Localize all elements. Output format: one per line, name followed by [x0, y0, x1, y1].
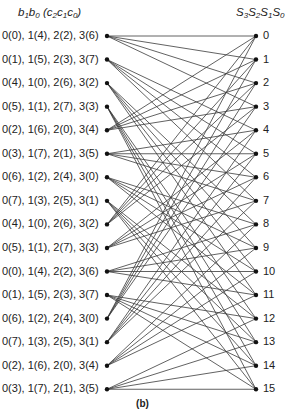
trellis-edge	[107, 60, 256, 319]
left-state-label: 0(6), 1(2), 2(4), 3(0)	[2, 170, 99, 182]
right-state-label: 6	[263, 170, 269, 182]
right-state-label: 0	[263, 29, 269, 41]
right-node	[254, 387, 258, 391]
right-node	[254, 152, 258, 156]
right-state-label: 12	[263, 312, 275, 324]
left-state-label: 0(5), 1(1), 2(7), 3(3)	[2, 241, 99, 253]
right-node	[254, 222, 258, 226]
trellis-edge	[107, 107, 256, 225]
left-node	[105, 104, 109, 108]
left-state-label: 0(3), 1(7), 2(1), 3(5)	[2, 382, 99, 394]
left-node	[105, 128, 109, 132]
left-state-label: 0(7), 1(3), 2(5), 3(1)	[2, 194, 99, 206]
left-state-label: 0(1), 1(5), 2(3), 3(7)	[2, 288, 99, 300]
left-node	[105, 222, 109, 226]
right-node	[254, 364, 258, 368]
left-node	[105, 246, 109, 250]
trellis-edge	[107, 319, 256, 390]
trellis-edge	[107, 224, 256, 365]
trellis-edge	[107, 342, 256, 389]
left-state-label: 0(4), 1(0), 2(6), 3(2)	[2, 76, 99, 88]
left-node	[105, 81, 109, 85]
right-state-label: 9	[263, 241, 269, 253]
trellis-edge	[107, 36, 256, 60]
right-state-label: 5	[263, 147, 269, 159]
right-state-label: 13	[263, 335, 275, 347]
left-state-label: 0(4), 1(0), 2(6), 3(2)	[2, 217, 99, 229]
left-node	[105, 364, 109, 368]
right-node	[254, 199, 258, 203]
left-state-label: 0(7), 1(3), 2(5), 3(1)	[2, 335, 99, 347]
trellis-edge	[107, 177, 256, 342]
left-state-label: 0(3), 1(7), 2(1), 3(5)	[2, 147, 99, 159]
left-node	[105, 34, 109, 38]
left-state-label: 0(0), 1(4), 2(2), 3(6)	[2, 265, 99, 277]
right-state-label: 15	[263, 382, 275, 394]
right-state-label: 3	[263, 100, 269, 112]
right-node	[254, 316, 258, 320]
left-node	[105, 293, 109, 297]
left-node	[105, 175, 109, 179]
left-state-label: 0(2), 1(6), 2(0), 3(4)	[2, 359, 99, 371]
left-state-label: 0(5), 1(1), 2(7), 3(3)	[2, 100, 99, 112]
right-state-label: 8	[263, 217, 269, 229]
trellis-edge	[107, 201, 256, 248]
right-node	[254, 269, 258, 273]
left-node	[105, 152, 109, 156]
left-node	[105, 340, 109, 344]
right-node	[254, 81, 258, 85]
right-node	[254, 246, 258, 250]
trellis-edge	[107, 36, 256, 224]
trellis-edge	[107, 366, 256, 390]
left-node	[105, 199, 109, 203]
right-state-label: 11	[263, 288, 274, 300]
left-state-label: 0(2), 1(6), 2(0), 3(4)	[2, 123, 99, 135]
left-state-label: 0(0), 1(4), 2(2), 3(6)	[2, 29, 99, 41]
trellis-edge	[107, 154, 256, 342]
right-node	[254, 34, 258, 38]
trellis-edge	[107, 130, 256, 342]
left-node	[105, 269, 109, 273]
right-node	[254, 104, 258, 108]
right-state-label: 1	[263, 53, 269, 65]
trellis-edge	[107, 272, 256, 366]
right-node	[254, 57, 258, 61]
right-state-label: 2	[263, 76, 269, 88]
trellis-edge	[107, 36, 256, 107]
right-state-label: 14	[263, 359, 275, 371]
right-node	[254, 128, 258, 132]
right-state-label: 10	[263, 265, 275, 277]
left-node	[105, 316, 109, 320]
trellis-edge	[107, 36, 256, 319]
right-node	[254, 293, 258, 297]
left-node	[105, 387, 109, 391]
trellis-edge	[107, 295, 256, 389]
left-state-label: 0(6), 1(2), 2(4), 3(0)	[2, 312, 99, 324]
left-state-label: 0(1), 1(5), 2(3), 3(7)	[2, 53, 99, 65]
right-node	[254, 175, 258, 179]
trellis-edge	[107, 36, 256, 83]
right-node	[254, 340, 258, 344]
left-node	[105, 57, 109, 61]
trellis-edge	[107, 36, 256, 130]
right-state-label: 7	[263, 194, 269, 206]
figure-caption: (b)	[0, 398, 285, 409]
right-state-label: 4	[263, 123, 269, 135]
trellis-edge	[107, 83, 256, 130]
